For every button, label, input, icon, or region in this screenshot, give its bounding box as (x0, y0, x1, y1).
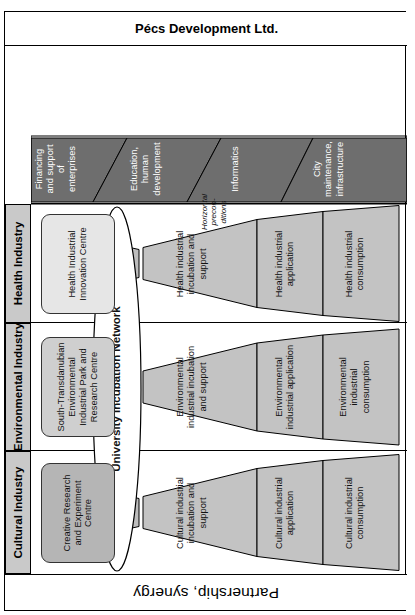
centre-box-label: Creative Research and Experiment Centre (62, 466, 95, 560)
horizontal-preconditions-note: Horizontal precon- ditions (181, 190, 247, 234)
stage-text: Environmental industrial application (274, 343, 296, 431)
stage-text: Cultural industrial application (274, 469, 296, 557)
centre-box-cultural[interactable]: Creative Research and Experiment Centre (41, 463, 115, 563)
diagram-footer-band: Pécs Development Ltd. (5, 12, 407, 46)
centre-box-environmental[interactable]: South-Transdanubian Environmental Indust… (41, 337, 115, 437)
diagram-root: Partnership, synergy Pécs Development Lt… (0, 0, 415, 615)
page-title: Partnership, synergy (133, 584, 279, 602)
precondition-label-financing: Financing and support of enterprises (13, 142, 99, 196)
diagram-title-band: Partnership, synergy (5, 574, 407, 610)
stage-label-environmental-application: Environmental industrial application (257, 343, 313, 431)
stage-label-environmental-incubation: Environmental industrial incubation and … (153, 343, 231, 431)
industry-header-health: Health Industry (5, 204, 31, 323)
stage-text: Environmental industrial consumption (338, 343, 371, 431)
stage-text: Health industrial consumption (344, 220, 366, 308)
precondition-label-education: Education, human development (103, 142, 189, 196)
precondition-text: Informatics (230, 146, 241, 191)
stage-label-cultural-application: Cultural industrial application (257, 469, 313, 557)
industry-header-label: Environmental Industry (12, 323, 24, 451)
stage-text: Cultural industrial incubation and suppo… (175, 469, 208, 557)
precondition-text: Education, human development (129, 142, 162, 196)
diagram-stage: Partnership, synergy Pécs Development Lt… (0, 0, 415, 615)
stage-text: Environmental industrial incubation and … (175, 343, 208, 431)
diagram-frame: Partnership, synergy Pécs Development Lt… (4, 11, 406, 611)
precondition-text: City maintenance, infrastructure (312, 141, 345, 197)
stage-label-cultural-incubation: Cultural industrial incubation and suppo… (153, 469, 231, 557)
centre-box-health[interactable]: Health Industrial Innovation Centre (41, 214, 115, 314)
precondition-label-informatics: Informatics (197, 142, 275, 196)
stage-label-cultural-consumption: Cultural industrial consumption (327, 469, 383, 557)
centre-box-label: Health Industrial Innovation Centre (67, 217, 89, 311)
stage-text: Cultural industrial consumption (344, 469, 366, 557)
precondition-text: Financing and support of enterprises (34, 142, 79, 196)
stage-label-environmental-consumption: Environmental industrial consumption (327, 343, 383, 431)
industry-header-strip: Cultural Industry Environmental Industry… (5, 46, 31, 574)
horizontal-preconditions-text: Horizontal precon- ditions (200, 190, 228, 234)
stage-text: Health industrial application (274, 220, 296, 308)
diagram-content: Cultural Industry Environmental Industry… (5, 46, 407, 574)
stage-label-health-application: Health industrial application (257, 220, 313, 308)
stage-label-health-consumption: Health industrial consumption (327, 220, 383, 308)
industry-header-cultural: Cultural Industry (5, 451, 31, 574)
centre-box-label: South-Transdanubian Environmental Indust… (56, 340, 100, 434)
industry-header-label: Cultural Industry (12, 467, 24, 559)
industry-header-environmental: Environmental Industry (5, 323, 31, 451)
industry-header-label: Health Industry (12, 222, 24, 306)
footer-label: Pécs Development Ltd. (134, 21, 277, 36)
precondition-label-city: City maintenance, infrastructure (281, 142, 377, 196)
